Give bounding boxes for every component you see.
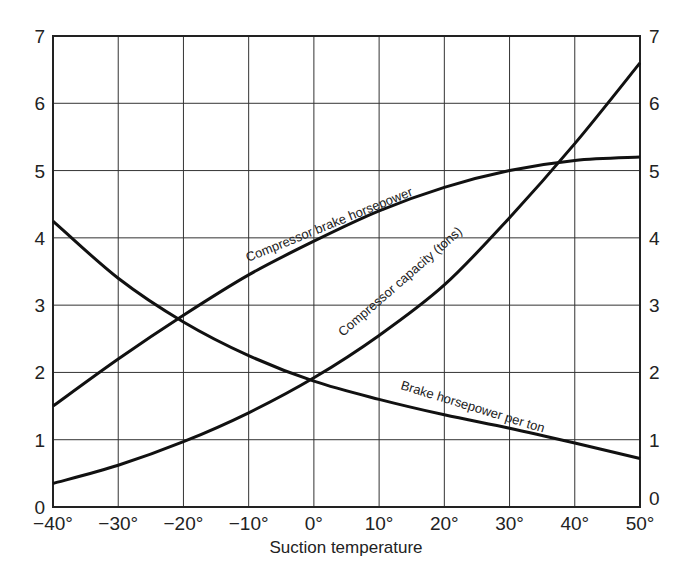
y-tick-left: 4: [34, 228, 45, 249]
y-axis-left-ticks: 01234567: [34, 26, 45, 518]
x-tick: 50°: [626, 513, 655, 534]
y-tick-right: 6: [649, 93, 660, 114]
y-tick-left: 6: [34, 93, 45, 114]
x-tick: 40°: [560, 513, 589, 534]
y-tick-left: 7: [34, 26, 45, 47]
data-curves: [53, 63, 640, 484]
label-compressor-brake-horsepower: Compressor brake horsepower: [244, 184, 416, 265]
y-tick-left: 1: [34, 430, 45, 451]
y-tick-right: 5: [649, 161, 660, 182]
x-tick: 30°: [495, 513, 524, 534]
x-tick: −40°: [33, 513, 73, 534]
curve-compressor-brake-horsepower: [53, 157, 640, 406]
y-tick-right: 4: [649, 228, 660, 249]
y-tick-left: 2: [34, 362, 45, 383]
curve-compressor-capacity: [53, 63, 640, 484]
y-axis-right-ticks: 01234567: [649, 26, 660, 509]
y-tick-right: 7: [649, 26, 660, 47]
curve-brake-horsepower-per-ton: [53, 221, 640, 459]
x-tick: 0°: [305, 513, 323, 534]
x-tick: 10°: [365, 513, 394, 534]
x-tick: 20°: [430, 513, 459, 534]
y-tick-right: 3: [649, 295, 660, 316]
chart: 01234567 01234567 −40°−30°−20°−10°0°10°2…: [0, 0, 688, 587]
y-tick-left: 5: [34, 161, 45, 182]
x-axis-label: Suction temperature: [269, 538, 422, 557]
x-axis-ticks: −40°−30°−20°−10°0°10°20°30°40°50°: [33, 513, 654, 534]
x-tick: −10°: [229, 513, 269, 534]
y-tick-right: 1: [649, 430, 660, 451]
y-tick-left: 3: [34, 295, 45, 316]
x-tick: −30°: [98, 513, 138, 534]
y-tick-right: 2: [649, 362, 660, 383]
y-tick-right: 0: [649, 488, 660, 509]
x-tick: −20°: [164, 513, 204, 534]
label-brake-horsepower-per-ton: Brake horsepower per ton: [399, 378, 546, 436]
